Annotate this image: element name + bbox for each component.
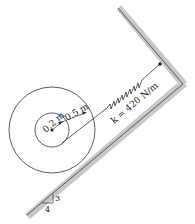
wall-vertical-segment (117, 5, 187, 87)
incline-edge-line (27, 84, 183, 215)
spring-link (143, 64, 160, 79)
wall-pin (158, 62, 162, 66)
outer-radius-label: 0.5 m (63, 101, 91, 123)
slope-run-label: 4 (45, 205, 50, 214)
diagram-canvas: 0.2 m 0.5 m k = 420 N/m 3 4 (0, 0, 195, 224)
slope-rise-label: 3 (55, 194, 60, 203)
